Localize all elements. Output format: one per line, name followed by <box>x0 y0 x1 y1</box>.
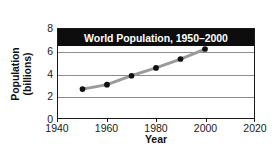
data-point <box>202 46 208 52</box>
plot-inner: World Population, 1950–2000 <box>58 29 254 118</box>
data-point <box>129 73 135 79</box>
data-series-layer <box>58 29 254 118</box>
y-axis-tick-labels: 86420 <box>38 28 53 119</box>
population-line-chart: Population (billions) 86420 World Popula… <box>0 0 277 153</box>
y-tick-label: 4 <box>38 69 53 79</box>
y-axis-title-text: Population (billions) <box>10 47 33 100</box>
y-axis-title: Population (billions) <box>4 28 38 119</box>
series-line <box>83 49 206 89</box>
data-point <box>178 56 184 62</box>
plot-area: World Population, 1950–2000 <box>57 28 255 119</box>
y-tick-label: 6 <box>38 46 53 56</box>
y-tick-label: 8 <box>38 23 53 33</box>
x-axis-title: Year <box>57 133 255 145</box>
data-point <box>80 86 86 92</box>
data-point <box>153 65 159 71</box>
y-axis-title-line-1: Population <box>9 47 21 100</box>
y-tick-label: 2 <box>38 91 53 101</box>
data-point <box>104 82 110 88</box>
y-axis-title-line-2: (billions) <box>20 52 32 95</box>
